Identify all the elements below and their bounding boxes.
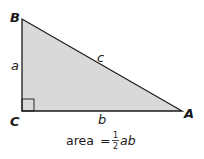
fraction-numerator: 1 xyxy=(113,131,118,140)
vertex-label-a: A xyxy=(183,106,194,121)
side-label-a: a xyxy=(11,58,19,73)
triangle-diagram: B C A a c b area = 1 2 ab xyxy=(0,0,204,159)
vertex-label-c: C xyxy=(10,114,20,129)
triangle-shape xyxy=(22,19,182,111)
formula-suffix: ab xyxy=(120,133,136,148)
area-formula: area = 1 2 ab xyxy=(66,131,136,151)
fraction-denominator: 2 xyxy=(113,142,118,151)
vertex-label-b: B xyxy=(10,10,20,25)
side-label-c: c xyxy=(97,50,104,65)
formula-prefix: area xyxy=(66,133,94,148)
formula-equals: = xyxy=(100,133,110,148)
side-label-b: b xyxy=(98,112,106,127)
